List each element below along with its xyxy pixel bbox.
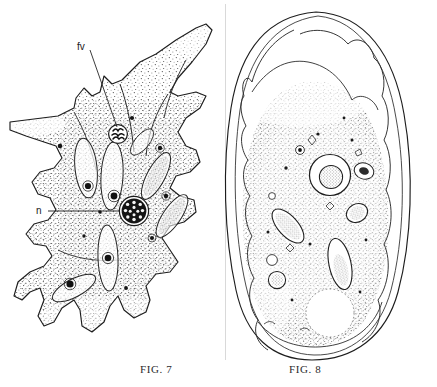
fig8-food-vacuole-8	[269, 193, 276, 200]
figure-8-caption-text: FIG. 8	[289, 363, 321, 375]
label-food-vacuole-text: fv	[77, 41, 85, 52]
fig8-ingested-organism-5	[271, 274, 283, 286]
fig7-inclusion-4	[66, 280, 73, 287]
label-nucleus: n	[36, 205, 42, 216]
fig8-karyosome-fill	[320, 166, 342, 188]
figure-7-caption: FIG. 7	[140, 363, 172, 375]
amoeba-plate-svg	[0, 0, 437, 387]
figure-7-caption-text: FIG. 7	[140, 363, 172, 375]
fig7-inclusion-3	[105, 255, 112, 262]
fig8-food-vacuole-6	[267, 255, 278, 266]
fig7-inclusion-2	[111, 193, 118, 200]
label-nucleus-text: n	[36, 205, 42, 216]
label-food-vacuole: fv	[77, 41, 85, 52]
fig8-granule-center-1	[298, 148, 302, 152]
fig7-inclusion-1	[85, 183, 91, 189]
fig7-food-vacuole-labelled	[109, 125, 128, 144]
figure-8-caption: FIG. 8	[289, 363, 321, 375]
illustration-plate	[0, 0, 437, 387]
